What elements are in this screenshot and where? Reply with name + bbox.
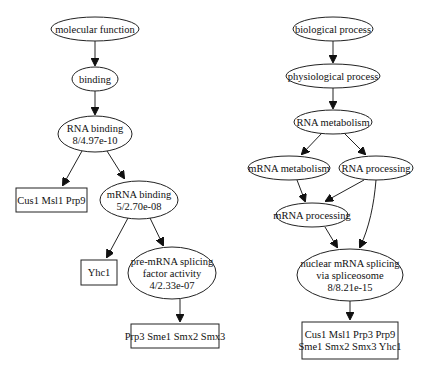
go-term-node: binding [72, 67, 118, 91]
node-label: Cus1 Msl1 Prp9 [17, 195, 85, 206]
node-label: factor activity [143, 268, 202, 279]
edge-mrnabinding-to-g_mf2 [107, 218, 128, 257]
edge-rnabinding-to-g_mf1 [63, 151, 82, 185]
gene-list-box: Cus1 Msl1 Prp3 Prp9Sme1 Smx2 Smx3 Yhc1 [298, 322, 401, 359]
node-label: pre-mRNA splicing [131, 256, 214, 267]
node-label: Yhc1 [88, 267, 111, 278]
node-label: binding [79, 74, 112, 85]
node-label: 4/2.33e-07 [149, 280, 194, 291]
go-term-node: mRNA binding5/2.70e-08 [100, 181, 178, 219]
molecular-function-tree: molecular functionbindingRNA binding8/4.… [16, 17, 225, 348]
edge-rnaproc-to-nuclear [360, 180, 376, 247]
biological-process-tree: biological processphysiological processR… [248, 17, 413, 359]
node-label: RNA binding [67, 123, 124, 134]
go-term-node: RNA binding8/4.97e-10 [58, 116, 132, 152]
edge-rnamet-to-rnaproc [344, 133, 365, 154]
gene-list-box: Cus1 Msl1 Prp9 [16, 188, 87, 212]
go-term-node: RNA metabolism [294, 110, 372, 134]
node-label: physiological process [288, 71, 379, 82]
node-label: mRNA binding [107, 189, 172, 200]
node-label: molecular function [55, 24, 135, 35]
gene-list-box: Prp3 Sme1 Smx2 Smx3 [125, 324, 226, 348]
node-label: via spliceosome [316, 270, 384, 281]
go-term-graph: molecular functionbindingRNA binding8/4.… [0, 0, 428, 366]
edge-rnabinding-to-mrnabinding [107, 151, 124, 178]
go-term-node: biological process [293, 17, 373, 41]
node-label: RNA metabolism [296, 117, 369, 128]
go-term-node: molecular function [51, 17, 139, 41]
node-label: RNA processing [341, 163, 411, 174]
edge-rnaproc-to-mrnaproc [326, 180, 364, 201]
go-term-node: RNA processing [339, 156, 413, 180]
nodes-layer: molecular functionbindingRNA binding8/4.… [16, 17, 413, 359]
edge-mrnabinding-to-premrna [150, 218, 163, 245]
node-label: Prp3 Sme1 Smx2 Smx3 [125, 331, 226, 342]
go-term-node: mRNA processing [273, 203, 351, 227]
node-label: biological process [295, 24, 371, 35]
node-label: 8/4.97e-10 [72, 135, 117, 146]
go-term-node: nuclear mRNA splicingvia spliceosome8/8.… [297, 249, 403, 301]
node-label: nuclear mRNA splicing [300, 258, 400, 269]
go-term-node: pre-mRNA splicingfactor activity4/2.33e-… [128, 247, 216, 299]
node-label: mRNA metabolism [248, 163, 329, 174]
node-label: 5/2.70e-08 [116, 201, 161, 212]
node-label: Cus1 Msl1 Prp3 Prp9 [305, 329, 396, 340]
go-diagram-canvas: molecular functionbindingRNA binding8/4.… [0, 0, 428, 366]
node-label: mRNA processing [273, 210, 351, 221]
node-label: 8/8.21e-15 [327, 282, 372, 293]
gene-list-box: Yhc1 [81, 260, 117, 285]
node-label: Sme1 Smx2 Smx3 Yhc1 [298, 341, 401, 352]
go-term-node: physiological process [286, 64, 380, 88]
go-term-node: mRNA metabolism [248, 156, 330, 180]
edge-rnamet-to-mrnamet [302, 133, 322, 154]
edge-mrnamet-to-mrnaproc [297, 180, 305, 201]
edge-mrnaproc-to-nuclear [325, 227, 337, 247]
